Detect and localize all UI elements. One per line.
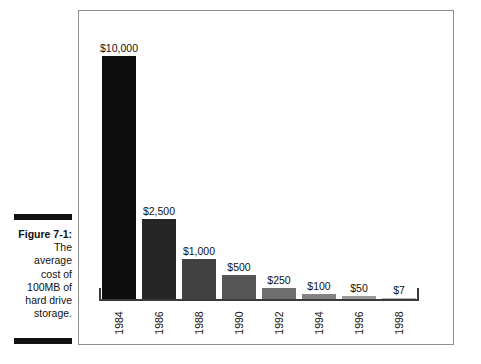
caption-text: Figure 7-1: The average cost of 100MB of… — [0, 228, 72, 320]
x-axis-tick-label-1996: 1996 — [342, 303, 376, 329]
x-axis-tick-label-1994: 1994 — [302, 303, 336, 329]
bar-value-label-1988: $1,000 — [175, 246, 223, 257]
caption-line-4: 100MB of — [0, 281, 72, 294]
bar-slot: $2501992 — [259, 11, 299, 299]
caption-rule-bottom — [14, 338, 72, 344]
caption-rule-top — [14, 214, 72, 220]
bar-value-label-1990: $500 — [215, 262, 263, 273]
x-axis-tick-label-1992: 1992 — [262, 303, 296, 329]
figure-frame: $10,0001984$2,5001986$1,0001988$5001990$… — [78, 10, 454, 345]
x-axis-cap-right — [417, 288, 419, 301]
bar-slot: $2,5001986 — [139, 11, 179, 299]
bar-chart: $10,0001984$2,5001986$1,0001988$5001990$… — [79, 11, 455, 346]
x-axis-cap-left — [99, 288, 101, 301]
bar-slot: $5001990 — [219, 11, 259, 299]
caption-line-6: storage. — [0, 307, 72, 320]
x-axis-tick-label-1988: 1988 — [182, 303, 216, 329]
bar-slot: $10,0001984 — [99, 11, 139, 299]
bar-slot: $71998 — [379, 11, 419, 299]
x-axis-tick-label-1984: 1984 — [102, 303, 136, 329]
bar-slot: $501996 — [339, 11, 379, 299]
bar-1986[interactable] — [142, 219, 176, 299]
caption-line-1: The — [0, 241, 72, 254]
bar-value-label-1986: $2,500 — [135, 206, 183, 217]
x-axis-tick-label-1998: 1998 — [382, 303, 416, 329]
bar-slot: $1001994 — [299, 11, 339, 299]
x-axis-line — [99, 299, 419, 301]
caption-line-3: cost of — [0, 268, 72, 281]
bar-1988[interactable] — [182, 259, 216, 299]
bar-value-label-1984: $10,000 — [95, 43, 143, 54]
bar-1984[interactable] — [102, 56, 136, 299]
x-axis-tick-label-1986: 1986 — [142, 303, 176, 329]
bar-1990[interactable] — [222, 275, 256, 299]
figure-caption: Figure 7-1: The average cost of 100MB of… — [0, 208, 78, 348]
caption-line-5: hard drive — [0, 294, 72, 307]
bar-value-label-1998: $7 — [375, 285, 423, 296]
caption-figure-label: Figure 7-1: — [0, 228, 72, 241]
x-axis-tick-label-1990: 1990 — [222, 303, 256, 329]
bar-slot: $1,0001988 — [179, 11, 219, 299]
bar-1992[interactable] — [262, 288, 296, 299]
bar-group: $10,0001984$2,5001986$1,0001988$5001990$… — [99, 11, 419, 299]
caption-line-2: average — [0, 254, 72, 267]
